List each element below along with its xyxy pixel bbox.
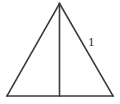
triangle-left-side [7,4,60,97]
figure-canvas: 1 [0,0,120,104]
triangle-diagram: 1 [0,0,120,104]
triangle-right-side [60,4,114,97]
side-length-label-1: 1 [88,34,95,49]
